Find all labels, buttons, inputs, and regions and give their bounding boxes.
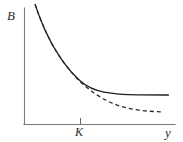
x-axis-label: y — [165, 126, 171, 139]
chart-figure: B y K — [0, 0, 183, 142]
plot-canvas — [0, 0, 183, 142]
x-tick-label-k: K — [75, 126, 83, 138]
dashed-decay-curve — [35, 4, 163, 112]
y-axis-label: B — [7, 9, 15, 22]
